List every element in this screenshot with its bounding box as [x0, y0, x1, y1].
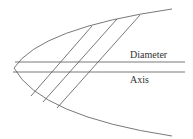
- chord-2: [43, 19, 117, 102]
- chord-1: [31, 26, 92, 96]
- parabola-curve: [14, 9, 172, 136]
- chord-3: [57, 15, 140, 108]
- parabola-diagram: [0, 0, 193, 139]
- diameter-label: Diameter: [130, 49, 167, 60]
- axis-label: Axis: [130, 74, 149, 85]
